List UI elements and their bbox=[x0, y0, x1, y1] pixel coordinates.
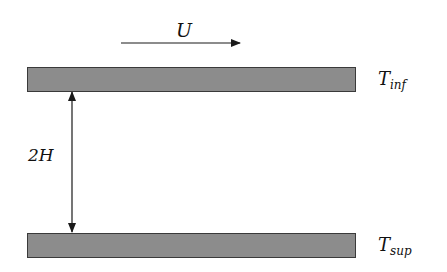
bottom-plate bbox=[27, 233, 356, 258]
top-temp-subscript: inf bbox=[390, 78, 406, 92]
top-plate bbox=[27, 67, 356, 92]
top-temp-base: T bbox=[378, 68, 390, 89]
channel-flow-diagram: U 2H Tinf Tsup bbox=[0, 0, 447, 272]
velocity-label: U bbox=[176, 21, 192, 40]
gap-label: 2H bbox=[28, 147, 54, 164]
diagram-arrows bbox=[0, 0, 447, 272]
bottom-temp-base: T bbox=[378, 234, 390, 255]
top-plate-temperature-label: Tinf bbox=[378, 70, 406, 91]
bottom-plate-temperature-label: Tsup bbox=[378, 236, 412, 257]
bottom-temp-subscript: sup bbox=[390, 244, 412, 258]
